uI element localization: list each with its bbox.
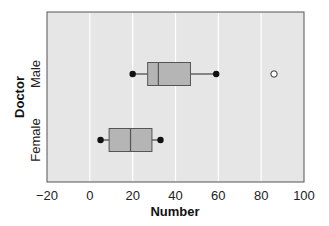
- x-tick-label: 20: [125, 188, 139, 203]
- whisker-cap-high: [157, 137, 163, 143]
- x-tick-label: 0: [86, 188, 93, 203]
- x-tick-label: 40: [168, 188, 182, 203]
- y-axis-label: Doctor: [12, 76, 27, 118]
- y-category-label: Male: [28, 60, 43, 88]
- x-axis-ticks: −20020406080100: [36, 188, 315, 203]
- x-tick-label: −20: [36, 188, 58, 203]
- x-tick-label: 80: [254, 188, 268, 203]
- y-axis-categories: MaleFemale: [28, 60, 43, 162]
- whisker-cap-low: [97, 137, 103, 143]
- outlier-point: [271, 71, 277, 77]
- whisker-cap-low: [129, 71, 135, 77]
- x-tick-label: 60: [211, 188, 225, 203]
- y-category-label: Female: [28, 118, 43, 161]
- x-tick-label: 100: [293, 188, 315, 203]
- boxplot-chart: −20020406080100 MaleFemale Number Doctor: [0, 0, 329, 226]
- x-axis-label: Number: [150, 204, 199, 219]
- whisker-cap-high: [213, 71, 219, 77]
- iqr-box: [148, 63, 191, 86]
